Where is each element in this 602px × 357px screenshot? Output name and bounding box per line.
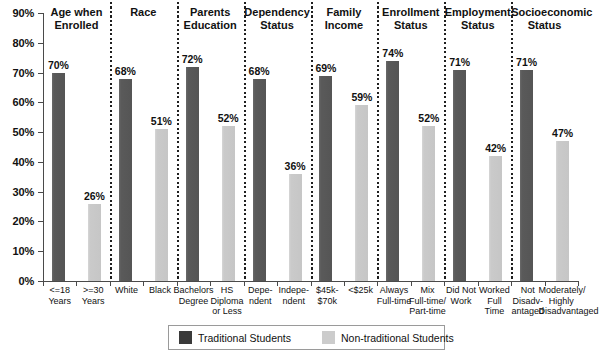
bar-cluster: 69%59% [311, 13, 378, 281]
bar-traditional[interactable] [186, 67, 199, 281]
category-label-line: Disadvantaged [539, 306, 584, 317]
chart-group: ParentsEducation72%52% [177, 13, 244, 281]
bar-traditional[interactable] [253, 79, 266, 281]
bar-value-label: 69% [315, 62, 336, 74]
bar-value-label: 72% [182, 53, 203, 65]
bar-non-traditional[interactable] [88, 204, 101, 281]
bar-traditional[interactable] [52, 73, 65, 281]
bar-value-label: 74% [382, 47, 403, 59]
bar-cluster: 71%47% [511, 13, 578, 281]
bar[interactable]: 72% [186, 67, 199, 281]
bar-value-label: 52% [418, 112, 439, 124]
y-axis-tick-label: 10% [0, 245, 34, 257]
y-axis-tick-label: 60% [0, 96, 34, 108]
group-divider [110, 2, 112, 281]
bar[interactable]: 52% [422, 126, 435, 281]
category-label-line: or Less [204, 306, 249, 317]
bar[interactable]: 42% [489, 156, 502, 281]
y-axis-tick-label: 0% [0, 275, 34, 287]
legend-item[interactable]: Non-traditional Students [322, 331, 454, 344]
group-divider [177, 2, 179, 281]
bar[interactable]: 36% [289, 174, 302, 281]
group-divider [444, 2, 446, 281]
legend-swatch-nontrad [322, 331, 335, 344]
bar-value-label: 42% [485, 142, 506, 154]
y-axis-tick-label: 50% [0, 126, 34, 138]
group-divider [511, 2, 513, 281]
bar-cluster: 72%52% [177, 13, 244, 281]
category-label-line: $70k [305, 296, 350, 307]
bar-non-traditional[interactable] [422, 126, 435, 281]
bar[interactable]: 47% [556, 141, 569, 281]
chart-group: FamilyIncome69%59% [311, 13, 378, 281]
legend: Traditional StudentsNon-traditional Stud… [168, 325, 445, 350]
bar-value-label: 71% [449, 56, 470, 68]
y-axis-tick-label: 80% [0, 37, 34, 49]
y-axis-tick-label: 40% [0, 156, 34, 168]
group-divider [311, 2, 313, 281]
bar-non-traditional[interactable] [222, 126, 235, 281]
category-label-line: Moderately/ [539, 285, 584, 296]
bar[interactable]: 51% [155, 129, 168, 281]
plot-area: Age whenEnrolled70%26%Race68%51%ParentsE… [43, 13, 578, 281]
bar-traditional[interactable] [119, 79, 132, 281]
bar-cluster: 70%26% [43, 13, 110, 281]
legend-swatch-trad [179, 331, 192, 344]
bar-traditional[interactable] [520, 70, 533, 281]
group-divider [244, 2, 246, 281]
bar-traditional[interactable] [386, 61, 399, 281]
legend-label: Non-traditional Students [341, 332, 454, 344]
bar[interactable]: 52% [222, 126, 235, 281]
bar-value-label: 59% [351, 91, 372, 103]
bar[interactable]: 68% [253, 79, 266, 281]
category-label-line: Part-time [405, 306, 450, 317]
bar[interactable]: 68% [119, 79, 132, 281]
chart-group: EmploymentStatus71%42% [444, 13, 511, 281]
bar-value-label: 71% [516, 56, 537, 68]
chart-group: Age whenEnrolled70%26% [43, 13, 110, 281]
chart-group: Race68%51% [110, 13, 177, 281]
chart-group: SocioeconomicStatus71%47% [511, 13, 578, 281]
bar-value-label: 68% [249, 65, 270, 77]
bar-non-traditional[interactable] [155, 129, 168, 281]
bar-non-traditional[interactable] [489, 156, 502, 281]
chart-group: EnrollmentStatus74%52% [377, 13, 444, 281]
legend-item[interactable]: Traditional Students [179, 331, 291, 344]
y-axis-tick-label: 30% [0, 186, 34, 198]
bar[interactable]: 59% [355, 105, 368, 281]
bar-traditional[interactable] [319, 76, 332, 281]
y-axis-tick-label: 70% [0, 67, 34, 79]
chart-group: DependencyStatus68%36% [244, 13, 311, 281]
bar[interactable]: 70% [52, 73, 65, 281]
category-label: Moderately/HighlyDisadvantaged [539, 285, 584, 317]
bar-value-label: 47% [552, 127, 573, 139]
bar-value-label: 68% [115, 65, 136, 77]
bar-value-label: 26% [84, 190, 105, 202]
group-divider [377, 2, 379, 281]
legend-label: Traditional Students [198, 332, 291, 344]
bar-traditional[interactable] [453, 70, 466, 281]
bar-cluster: 68%36% [244, 13, 311, 281]
bar-cluster: 68%51% [110, 13, 177, 281]
bar-cluster: 74%52% [377, 13, 444, 281]
bar[interactable]: 71% [453, 70, 466, 281]
bar[interactable]: 69% [319, 76, 332, 281]
category-label-line: Highly [539, 296, 584, 307]
y-axis-tick-label: 90% [0, 7, 34, 19]
bar[interactable]: 74% [386, 61, 399, 281]
bar-non-traditional[interactable] [355, 105, 368, 281]
bar-non-traditional[interactable] [289, 174, 302, 281]
y-axis-tick-label: 20% [0, 215, 34, 227]
bar-value-label: 36% [285, 160, 306, 172]
bar-non-traditional[interactable] [556, 141, 569, 281]
bar-value-label: 70% [48, 59, 69, 71]
bar-value-label: 51% [151, 115, 172, 127]
chart-canvas: 90%80%70%60%50%40%30%20%10%0% Age whenEn… [0, 0, 602, 357]
bar-value-label: 52% [218, 112, 239, 124]
bar-cluster: 71%42% [444, 13, 511, 281]
bar[interactable]: 26% [88, 204, 101, 281]
bar[interactable]: 71% [520, 70, 533, 281]
category-label-line: Years [70, 296, 115, 307]
